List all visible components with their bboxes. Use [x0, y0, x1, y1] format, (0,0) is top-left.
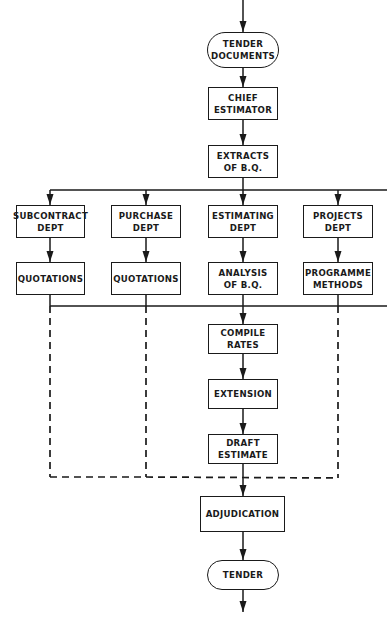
flowchart-canvas — [0, 0, 387, 630]
node-label-line: DEPT — [133, 222, 159, 234]
node-label-line: RATES — [227, 339, 259, 351]
arrowhead-icon — [240, 194, 247, 205]
node-draft-estimate: DRAFTESTIMATE — [208, 434, 278, 464]
arrowhead-icon — [143, 194, 150, 205]
node-label-line: TENDER — [223, 38, 263, 50]
dashed-feedback-lines — [50, 306, 338, 478]
node-label-line: ESTIMATING — [212, 210, 274, 222]
node-label-line: COMPILE — [220, 327, 265, 339]
arrowhead-icon — [240, 423, 247, 434]
node-label-line: METHODS — [313, 279, 363, 291]
node-programme-methods: PROGRAMMEMETHODS — [303, 262, 373, 295]
arrowhead-icon — [240, 21, 247, 32]
node-label-line: DRAFT — [226, 437, 260, 449]
node-label-line: SUBCONTRACT — [13, 210, 88, 222]
node-label-line: ESTIMATE — [218, 449, 268, 461]
node-label-line: CHIEF — [228, 92, 258, 104]
dashed-connector — [146, 477, 338, 478]
node-label-line: QUOTATIONS — [18, 273, 84, 285]
arrowhead-icon — [240, 485, 247, 496]
arrowhead-icon — [240, 368, 247, 379]
arrowhead-icon — [240, 313, 247, 324]
node-label-line: ANALYSIS — [219, 267, 268, 279]
node-label-line: OF B.Q. — [224, 162, 263, 174]
arrowhead-icon — [240, 251, 247, 262]
node-label-line: DEPT — [37, 222, 63, 234]
arrowhead-icon — [335, 251, 342, 262]
node-label-line: OF B.Q. — [224, 279, 263, 291]
node-label-line: EXTRACTS — [217, 150, 269, 162]
node-subcontract-dept: SUBCONTRACTDEPT — [16, 205, 85, 238]
node-purchase-dept: PURCHASEDEPT — [111, 205, 181, 238]
node-extracts-bq: EXTRACTSOF B.Q. — [208, 145, 278, 178]
arrowhead-icon — [240, 76, 247, 87]
node-label-line: PROGRAMME — [305, 267, 371, 279]
node-projects-dept: PROJECTSDEPT — [303, 205, 373, 238]
arrowheads — [47, 21, 342, 612]
arrowhead-icon — [143, 251, 150, 262]
node-label-line: ESTIMATOR — [214, 104, 272, 116]
node-label-line: ADJUDICATION — [206, 508, 280, 520]
node-chief-estimator: CHIEFESTIMATOR — [208, 87, 278, 120]
arrowhead-icon — [240, 601, 247, 612]
node-quotations-sub: QUOTATIONS — [16, 262, 85, 295]
arrowhead-icon — [47, 251, 54, 262]
node-quotations-pur: QUOTATIONS — [111, 262, 181, 295]
arrowhead-icon — [47, 194, 54, 205]
node-label-line: DEPT — [325, 222, 351, 234]
node-label-line: DOCUMENTS — [211, 50, 275, 62]
arrowhead-icon — [240, 549, 247, 560]
node-label-line: DEPT — [230, 222, 256, 234]
node-label-line: PROJECTS — [313, 210, 363, 222]
arrowhead-icon — [240, 134, 247, 145]
node-label-line: QUOTATIONS — [113, 273, 179, 285]
node-tender: TENDER — [207, 560, 279, 590]
node-label-line: EXTENSION — [214, 388, 272, 400]
node-extension: EXTENSION — [208, 379, 278, 409]
node-compile-rates: COMPILERATES — [208, 324, 278, 354]
arrowhead-icon — [335, 194, 342, 205]
node-adjudication: ADJUDICATION — [200, 496, 285, 532]
node-label-line: TENDER — [223, 569, 263, 581]
node-tender-documents: TENDERDOCUMENTS — [207, 32, 279, 68]
node-label-line: PURCHASE — [119, 210, 174, 222]
node-estimating-dept: ESTIMATINGDEPT — [208, 205, 278, 238]
node-analysis-bq: ANALYSISOF B.Q. — [208, 262, 278, 295]
